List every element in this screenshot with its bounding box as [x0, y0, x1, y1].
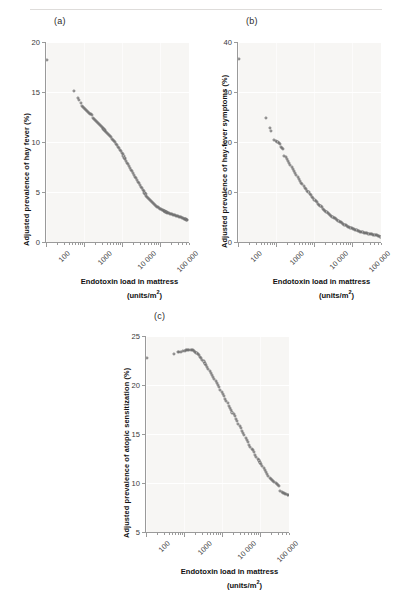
grid-line-vertical — [46, 42, 47, 242]
x-axis-tick — [148, 243, 149, 245]
y-axis-tick-label: 15 — [118, 430, 140, 439]
y-axis-tick-label: 25 — [118, 332, 140, 341]
data-point — [238, 57, 240, 60]
data-point — [379, 235, 381, 238]
x-axis-tick — [186, 243, 187, 245]
data-point — [146, 356, 148, 359]
x-axis-tick — [294, 243, 295, 245]
x-axis-tick — [118, 243, 119, 245]
x-axis-tick — [72, 243, 73, 245]
x-axis-tick — [210, 533, 211, 535]
y-axis-title: Adjusted prevalence of hay-fever symptom… — [220, 75, 229, 248]
x-axis-tick — [267, 243, 268, 245]
data-point — [278, 484, 281, 487]
grid-line-vertical — [84, 42, 85, 242]
x-axis-tick — [175, 533, 176, 535]
x-axis-tick — [363, 243, 364, 245]
y-axis-tick-label: 20 — [210, 138, 232, 147]
x-axis-tick — [325, 243, 326, 245]
x-axis-tick — [78, 243, 79, 245]
x-axis-title-line1: Endotoxin load in mattress — [273, 277, 370, 286]
x-axis-tick-label: 10 000 — [135, 249, 157, 271]
x-axis-tick — [107, 243, 108, 245]
x-axis-tick — [180, 533, 181, 535]
x-axis-tick — [260, 533, 261, 537]
x-axis-tick — [84, 243, 85, 247]
x-axis-tick — [144, 243, 145, 245]
grid-line-vertical — [122, 42, 123, 242]
x-axis-tick — [289, 533, 290, 535]
x-axis-tick — [233, 533, 234, 535]
y-axis-tick — [42, 242, 45, 243]
x-axis-tick — [195, 533, 196, 535]
x-axis-tick-label: 100 — [57, 249, 72, 264]
x-axis-tick — [178, 243, 179, 245]
x-axis-tick-label: 1000 — [96, 249, 114, 267]
x-axis-title-exponent: 2 — [256, 579, 259, 585]
x-axis-tick — [154, 243, 155, 245]
x-axis-tick — [171, 243, 172, 245]
y-axis-tick-label: 40 — [210, 38, 232, 47]
y-axis-tick-label: 0 — [18, 238, 40, 247]
x-axis-tick — [218, 533, 219, 535]
y-axis-tick-label: 20 — [118, 381, 140, 390]
data-point — [264, 116, 267, 119]
x-axis-tick — [146, 533, 147, 537]
x-axis-tick — [164, 533, 165, 535]
y-axis-tick — [142, 336, 145, 337]
x-axis-title: Endotoxin load in mattress(units/m2) — [55, 276, 204, 301]
data-point — [46, 58, 48, 61]
x-axis-tick — [178, 533, 179, 535]
x-axis-tick-label: 100 — [249, 249, 264, 264]
x-axis-tick — [216, 533, 217, 535]
x-axis-spine — [45, 242, 189, 243]
x-axis-tick — [156, 243, 157, 245]
x-axis-tick — [113, 243, 114, 245]
x-axis-tick-label: 100 — [157, 539, 172, 554]
y-axis-tick — [42, 192, 45, 193]
x-axis-tick — [184, 533, 185, 537]
x-axis-tick — [256, 243, 257, 245]
y-axis-tick-label: 5 — [18, 188, 40, 197]
x-axis-tick — [314, 243, 315, 247]
y-axis-title: Adjusted prevalence of atopic sensitizat… — [122, 368, 131, 538]
x-axis-title-line2: (units/m2) — [55, 287, 204, 301]
x-axis-tick — [340, 243, 341, 245]
grid-line-horizontal — [238, 92, 381, 93]
x-axis-tick — [305, 243, 306, 245]
grid-line-vertical — [260, 336, 261, 532]
x-axis-tick — [169, 533, 170, 535]
x-axis-tick — [102, 243, 103, 245]
y-axis-tick-label: 10 — [18, 138, 40, 147]
x-axis-tick — [207, 533, 208, 535]
x-axis-tick — [299, 243, 300, 245]
x-axis-tick — [116, 243, 117, 245]
y-axis-tick-label: 15 — [18, 88, 40, 97]
grid-line-vertical — [146, 336, 147, 532]
x-axis-tick — [352, 243, 353, 247]
grid-line-horizontal — [46, 92, 189, 93]
y-axis-tick — [42, 42, 45, 43]
y-axis-tick-label: 20 — [18, 38, 40, 47]
x-axis-tick-label: 1000 — [196, 539, 214, 557]
x-axis-tick — [157, 533, 158, 535]
y-axis-title: Adjusted prevalence of hay fever (%) — [22, 113, 31, 246]
x-axis-tick — [46, 243, 47, 247]
x-axis-title-line1: Endotoxin load in mattress — [81, 277, 178, 286]
x-axis-tick — [287, 243, 288, 245]
grid-line-horizontal — [238, 142, 381, 143]
data-point — [270, 129, 273, 132]
x-axis-tick — [140, 243, 141, 245]
grid-line-vertical — [160, 42, 161, 242]
top-divider-rule — [30, 9, 382, 10]
y-axis-tick — [142, 532, 145, 533]
x-axis-tick — [213, 533, 214, 535]
data-point — [172, 352, 175, 355]
grid-line-horizontal — [146, 483, 289, 484]
x-axis-tick — [336, 243, 337, 245]
y-axis-tick-label: 10 — [118, 479, 140, 488]
plot-area — [146, 336, 289, 532]
y-axis-tick — [42, 142, 45, 143]
grid-line-vertical — [314, 42, 315, 242]
x-axis-tick — [75, 243, 76, 245]
